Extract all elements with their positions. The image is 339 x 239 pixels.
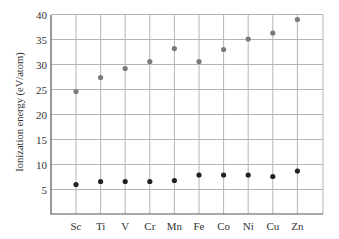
data-point (73, 182, 78, 187)
data-point (270, 174, 275, 179)
y-tick-label: 20 (36, 109, 48, 121)
x-tick-label: Fe (194, 220, 205, 232)
data-point (172, 178, 177, 183)
y-axis-ticks: 510152025303540 (36, 9, 48, 196)
x-tick-label: Ti (96, 220, 105, 232)
x-tick-label: Cr (144, 220, 155, 232)
grid (51, 15, 323, 215)
data-point (246, 36, 251, 41)
x-tick-label: Ni (243, 220, 254, 232)
data-points (73, 17, 300, 187)
y-tick-label: 5 (42, 184, 48, 196)
ionization-energy-chart: 510152025303540 ScTiVCrMnFeCoNiCuZn Ioni… (0, 0, 339, 239)
data-point (196, 172, 201, 177)
x-tick-label: Zn (291, 220, 304, 232)
data-point (270, 30, 275, 35)
data-point (295, 17, 300, 22)
data-point (123, 179, 128, 184)
data-point (221, 47, 226, 52)
data-point (295, 168, 300, 173)
data-point (246, 172, 251, 177)
x-tick-label: V (121, 220, 129, 232)
data-point (73, 89, 78, 94)
y-tick-label: 40 (36, 9, 48, 21)
y-tick-label: 35 (36, 34, 48, 46)
data-point (147, 179, 152, 184)
data-point (221, 172, 226, 177)
y-tick-label: 10 (36, 159, 48, 171)
x-axis-ticks: ScTiVCrMnFeCoNiCuZn (71, 220, 305, 232)
x-tick-label: Mn (167, 220, 183, 232)
data-point (98, 75, 103, 80)
x-tick-label: Co (217, 220, 230, 232)
data-point (98, 179, 103, 184)
data-point (196, 59, 201, 64)
x-tick-label: Sc (71, 220, 82, 232)
data-point (147, 59, 152, 64)
data-point (172, 46, 177, 51)
data-point (123, 66, 128, 71)
y-tick-label: 15 (36, 134, 48, 146)
y-axis-label: Ionization energy (eV/atom) (14, 52, 26, 172)
y-tick-label: 25 (36, 84, 48, 96)
y-tick-label: 30 (36, 59, 48, 71)
x-tick-label: Cu (266, 220, 279, 232)
